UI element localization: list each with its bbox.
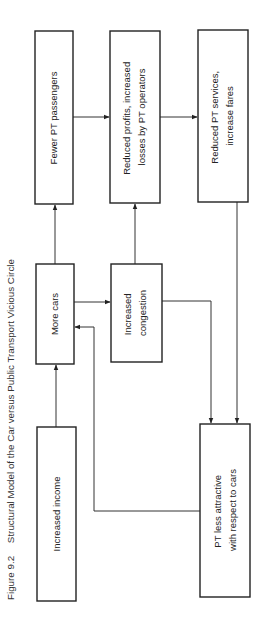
node-label-line: with respect to cars	[227, 469, 238, 552]
node-increased-congestion: Increased congestion	[111, 264, 162, 362]
edge-congestion-to-pt-less-attractive	[162, 301, 211, 423]
node-label-line: PT less attractive	[212, 475, 223, 548]
node-label-line: increase fares	[224, 86, 235, 146]
figure-caption: Figure 9.2 Structural Model of the Car v…	[5, 259, 16, 600]
node-reduced-pt-services: Reduced PT services, increase fares	[198, 30, 248, 202]
node-label-line: Fewer PT passengers	[48, 71, 59, 164]
node-label-line: Increased income	[51, 477, 62, 552]
node-reduced-profits: Reduced profits, increased losses by PT …	[110, 31, 160, 203]
vicious-circle-diagram: Figure 9.2 Structural Model of the Car v…	[0, 0, 264, 636]
svg-text:Increased income: Increased income	[51, 477, 62, 552]
node-label-line: losses by PT operators	[136, 68, 147, 165]
svg-text:Fewer PT passengers: Fewer PT passengers	[48, 71, 59, 164]
node-fewer-pt-passengers: Fewer PT passengers	[35, 31, 73, 204]
node-pt-less-attractive: PT less attractive with respect to cars	[200, 424, 250, 597]
node-label-line: Reduced PT services,	[209, 71, 220, 164]
figure-number: Figure 9.2	[5, 556, 16, 600]
node-label-line: congestion	[137, 290, 148, 336]
node-label-line: Increased	[122, 293, 133, 335]
svg-text:More cars: More cars	[49, 293, 60, 335]
node-label-line: More cars	[49, 293, 60, 335]
node-increased-income: Increased income	[37, 427, 76, 601]
node-label-line: Reduced profits, increased	[121, 62, 132, 175]
node-more-cars: More cars	[36, 264, 74, 364]
figure-title: Structural Model of the Car versus Publi…	[5, 259, 16, 544]
